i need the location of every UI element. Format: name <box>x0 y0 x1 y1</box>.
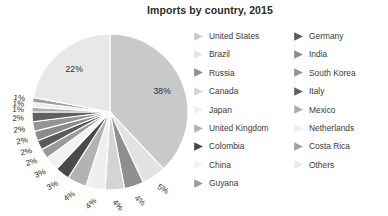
pie-slice-label: 2% <box>13 125 25 135</box>
legend-triangle-marker-icon <box>193 67 204 78</box>
pie-slice-label: 38% <box>154 86 172 96</box>
legend-item[interactable]: United Kingdom <box>193 119 293 137</box>
legend-triangle-marker-icon <box>193 123 204 134</box>
legend-item-label: Mexico <box>309 106 336 114</box>
pie-slice-label: 2% <box>16 136 29 147</box>
chart-legend: United StatesBrazilRussiaCanadaJapanUnit… <box>193 27 388 212</box>
pie-slice-label: 3% <box>45 179 59 192</box>
legend-item[interactable]: Netherlands <box>293 119 388 137</box>
legend-item[interactable]: India <box>293 45 388 63</box>
legend-item[interactable]: Japan <box>193 101 293 119</box>
pie-slice-label: 4% <box>84 196 99 210</box>
legend-item-label: Italy <box>309 87 324 95</box>
legend-item[interactable]: Russia <box>193 64 293 82</box>
legend-item-label: Russia <box>209 69 235 77</box>
legend-triangle-marker-icon <box>193 104 204 115</box>
legend-triangle-marker-icon <box>193 31 204 42</box>
legend-item[interactable]: China <box>193 156 293 174</box>
legend-triangle-marker-icon <box>293 86 304 97</box>
legend-item[interactable]: United States <box>193 27 293 45</box>
pie-slice-label: 22% <box>66 64 84 74</box>
legend-triangle-marker-icon <box>293 123 304 134</box>
legend-item-label: Others <box>309 161 334 169</box>
legend-item-label: South Korea <box>309 69 356 77</box>
legend-triangle-marker-icon <box>193 49 204 60</box>
legend-item[interactable]: Canada <box>193 82 293 100</box>
legend-triangle-marker-icon <box>293 141 304 152</box>
legend-triangle-marker-icon <box>293 67 304 78</box>
legend-item-label: Germany <box>309 32 343 40</box>
legend-triangle-marker-icon <box>293 104 304 115</box>
legend-triangle-marker-icon <box>293 31 304 42</box>
pie-chart-area: 38%5%4%4%4%4%3%3%2%2%2%2%2%1%1%1%22% <box>0 18 196 216</box>
pie-slice-label: 4% <box>62 189 77 203</box>
legend-item[interactable]: Others <box>293 156 388 174</box>
legend-item-label: China <box>209 161 231 169</box>
legend-item[interactable]: South Korea <box>293 64 388 82</box>
legend-item-label: United States <box>209 32 259 40</box>
legend-triangle-marker-icon <box>293 49 304 60</box>
legend-column-left: United StatesBrazilRussiaCanadaJapanUnit… <box>193 27 293 212</box>
pie-slice-label: 5% <box>156 182 171 196</box>
legend-item-label: Brazil <box>209 50 230 58</box>
legend-triangle-marker-icon <box>193 86 204 97</box>
legend-triangle-marker-icon <box>193 178 204 189</box>
legend-item[interactable]: Guyana <box>193 174 293 192</box>
legend-item[interactable]: Colombia <box>193 137 293 155</box>
pie-slice-label: 4% <box>133 193 148 207</box>
chart-title: Imports by country, 2015 <box>60 4 360 16</box>
legend-item-label: Guyana <box>209 179 238 187</box>
pie-slice-label: 4% <box>110 198 124 213</box>
legend-item-label: United Kingdom <box>209 124 269 132</box>
legend-column-right: GermanyIndiaSouth KoreaItalyMexicoNether… <box>293 27 388 212</box>
pie-chart-figure: Imports by country, 2015 38%5%4%4%4%4%3%… <box>0 0 388 216</box>
legend-triangle-marker-icon <box>193 141 204 152</box>
pie-slice-label: 2% <box>25 156 39 168</box>
legend-item-label: Netherlands <box>309 124 354 132</box>
legend-item-label: Canada <box>209 87 238 95</box>
legend-item-label: Colombia <box>209 142 244 150</box>
legend-item-label: India <box>309 50 327 58</box>
legend-item[interactable]: Mexico <box>293 101 388 119</box>
legend-item[interactable]: Costa Rica <box>293 137 388 155</box>
pie-slice-label: 2% <box>12 114 24 123</box>
pie-slice-label: 2% <box>20 146 33 158</box>
legend-triangle-marker-icon <box>293 159 304 170</box>
legend-item-label: Japan <box>209 106 232 114</box>
legend-item[interactable]: Italy <box>293 82 388 100</box>
legend-item[interactable]: Germany <box>293 27 388 45</box>
pie-chart-svg: 38%5%4%4%4%4%3%3%2%2%2%2%2%1%1%1%22% <box>0 18 196 216</box>
pie-slice-label: 3% <box>33 167 47 180</box>
legend-item-label: Costa Rica <box>309 142 350 150</box>
pie-slices-group <box>32 34 188 190</box>
pie-slice-label: 1% <box>13 93 25 103</box>
legend-triangle-marker-icon <box>193 159 204 170</box>
legend-item[interactable]: Brazil <box>193 45 293 63</box>
